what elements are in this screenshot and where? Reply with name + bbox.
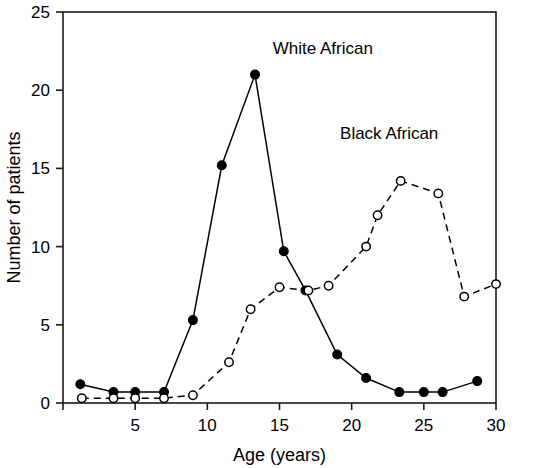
data-point[interactable] [333, 350, 342, 359]
data-point[interactable] [492, 280, 500, 288]
data-point[interactable] [131, 394, 139, 402]
series-line [80, 75, 477, 393]
data-point[interactable] [109, 394, 117, 402]
chart-figure: 510152025300510152025Age (years)Number o… [0, 0, 555, 468]
x-tick-label: 10 [198, 416, 217, 435]
data-point[interactable] [189, 316, 198, 325]
y-tick-label: 15 [31, 159, 50, 178]
y-tick-label: 20 [31, 81, 50, 100]
plot-frame [63, 12, 496, 403]
series-white-african: White African [76, 39, 482, 396]
data-point[interactable] [279, 247, 288, 256]
data-point[interactable] [395, 388, 404, 397]
data-point[interactable] [362, 242, 370, 250]
x-tick-label: 15 [270, 416, 289, 435]
data-point[interactable] [434, 189, 442, 197]
data-point[interactable] [76, 380, 85, 389]
data-point[interactable] [419, 388, 428, 397]
x-tick-label: 5 [130, 416, 139, 435]
data-point[interactable] [217, 161, 226, 170]
data-point[interactable] [251, 70, 260, 79]
data-point[interactable] [438, 388, 447, 397]
series-black-african: Black African [78, 124, 501, 403]
x-tick-label: 20 [342, 416, 361, 435]
series-label-1: White African [273, 39, 373, 58]
data-point[interactable] [304, 286, 312, 294]
data-point[interactable] [275, 283, 283, 291]
data-point[interactable] [373, 211, 381, 219]
data-point[interactable] [473, 377, 482, 386]
y-tick-label: 5 [41, 316, 50, 335]
data-point[interactable] [397, 177, 405, 185]
y-axis-title: Number of patients [4, 131, 24, 283]
x-tick-label: 30 [487, 416, 506, 435]
data-point[interactable] [78, 394, 86, 402]
data-point[interactable] [324, 282, 332, 290]
data-point[interactable] [225, 358, 233, 366]
y-tick-label: 10 [31, 238, 50, 257]
x-axis-title: Age (years) [233, 445, 326, 465]
series-line [82, 181, 496, 398]
x-tick-label: 25 [414, 416, 433, 435]
y-tick-label: 25 [31, 3, 50, 22]
line-chart-svg: 510152025300510152025Age (years)Number o… [0, 0, 555, 468]
data-point[interactable] [460, 292, 468, 300]
data-point[interactable] [189, 391, 197, 399]
data-point[interactable] [246, 305, 254, 313]
data-point[interactable] [362, 374, 371, 383]
series-label-2: Black African [340, 124, 438, 143]
data-point[interactable] [160, 394, 168, 402]
y-tick-label: 0 [41, 394, 50, 413]
